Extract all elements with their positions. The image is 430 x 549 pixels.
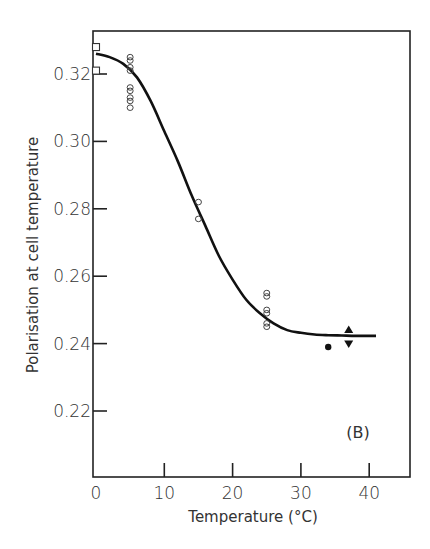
triangle-down-marker: [344, 341, 353, 349]
x-tick-label: 20: [222, 483, 244, 503]
circle-open-marker: [127, 54, 133, 60]
circle-open-marker: [264, 310, 270, 316]
x-axis-ticks: 010203040: [91, 463, 380, 503]
circle-open-marker: [127, 105, 133, 111]
y-tick-label: 0.22: [53, 401, 91, 421]
x-tick-label: 10: [153, 483, 175, 503]
x-tick-label: 40: [358, 483, 380, 503]
y-axis-title: Polarisation at cell temperature: [24, 137, 42, 374]
y-tick-label: 0.28: [53, 199, 91, 219]
x-axis-title: Temperature (°C): [187, 508, 317, 526]
y-axis-ticks: 0.220.240.260.280.300.32: [53, 64, 107, 421]
circle-open-marker: [127, 85, 133, 91]
data-points: [93, 44, 354, 351]
circle-open-marker: [264, 321, 270, 327]
circle-open-marker: [264, 324, 270, 330]
circle-open-marker: [264, 294, 270, 300]
fit-curve: [96, 54, 376, 336]
circle-open-marker: [264, 290, 270, 296]
square-open-marker: [93, 44, 100, 51]
x-tick-label: 30: [290, 483, 312, 503]
y-tick-label: 0.26: [53, 266, 91, 286]
panel-label: (B): [346, 423, 369, 442]
triangle-up-marker: [344, 326, 353, 334]
circle-open-marker: [127, 58, 133, 64]
y-tick-label: 0.32: [53, 64, 91, 84]
y-tick-label: 0.30: [53, 131, 91, 151]
circle-open-marker: [264, 307, 270, 313]
polarisation-chart: 0.220.240.260.280.300.32 010203040 (B) T…: [0, 0, 430, 549]
x-tick-label: 0: [91, 483, 102, 503]
circle-open-marker: [127, 88, 133, 94]
y-tick-label: 0.24: [53, 334, 91, 354]
plot-frame: [93, 31, 410, 477]
circle-open-marker: [195, 216, 201, 222]
circle-open-marker: [195, 199, 201, 205]
circle-open-marker: [127, 95, 133, 101]
square-open-marker: [93, 67, 100, 74]
circle-filled-marker: [325, 344, 331, 350]
circle-open-marker: [127, 98, 133, 104]
